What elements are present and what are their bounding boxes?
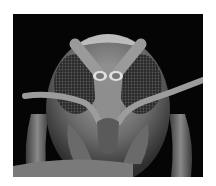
mouthparts [97,118,119,154]
sem-photograph [13,14,203,177]
right-leg [169,114,192,177]
insect-head-illustration [13,14,203,177]
